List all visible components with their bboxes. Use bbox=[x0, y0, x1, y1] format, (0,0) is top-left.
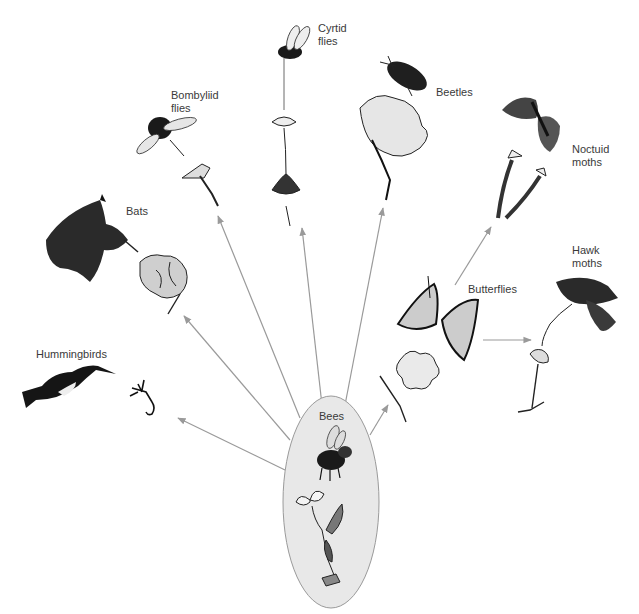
bombyliid-flower-illustration bbox=[182, 164, 218, 206]
arrow-to-bats bbox=[184, 316, 290, 440]
diagram-canvas bbox=[0, 0, 639, 614]
beetle-illustration bbox=[380, 55, 432, 96]
label-bats: Bats bbox=[126, 205, 148, 218]
cyrtid-flower-illustration bbox=[272, 117, 300, 226]
label-hawk-moths: Hawk moths bbox=[572, 244, 602, 270]
label-butterflies: Butterflies bbox=[468, 283, 517, 296]
hawk-moth-illustration bbox=[542, 278, 618, 346]
butterfly-flower-illustration bbox=[380, 351, 439, 422]
arrow-to-bombyliid-flies bbox=[218, 216, 300, 418]
arrow-to-cyrtid-flies bbox=[302, 228, 322, 405]
label-cyrtid-flies: Cyrtid flies bbox=[318, 22, 347, 48]
arrow-to-butterflies bbox=[370, 405, 388, 435]
noctuid-flower-illustration bbox=[498, 150, 546, 218]
arrow-to-noctuid-moths bbox=[455, 227, 491, 285]
label-noctuid-moths: Noctuid moths bbox=[572, 143, 609, 169]
hummingbird-illustration bbox=[22, 366, 116, 408]
arrow-to-beetles bbox=[345, 208, 383, 405]
cyrtid-fly-illustration bbox=[278, 24, 313, 110]
hummingbird-flower-illustration bbox=[130, 380, 154, 415]
butterfly-illustration bbox=[398, 276, 478, 360]
label-bombyliid-flies: Bombyliid flies bbox=[171, 89, 219, 115]
label-beetles: Beetles bbox=[436, 86, 473, 99]
label-bees: Bees bbox=[319, 410, 344, 423]
bat-illustration bbox=[46, 194, 138, 282]
beetle-flower-illustration bbox=[360, 96, 428, 200]
arrow-to-hummingbirds bbox=[178, 418, 285, 470]
hawk-moth-flower-illustration bbox=[518, 350, 548, 413]
noctuid-moth-illustration bbox=[502, 98, 560, 152]
bombyliid-fly-illustration bbox=[134, 115, 198, 157]
bat-flower-illustration bbox=[140, 255, 187, 314]
label-hummingbirds: Hummingbirds bbox=[36, 348, 107, 361]
